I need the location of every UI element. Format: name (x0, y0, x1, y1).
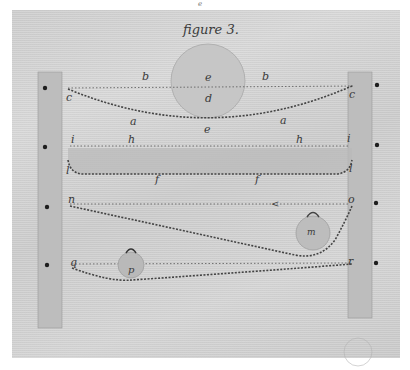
label-r: r (348, 255, 354, 268)
label-i-right: i (347, 132, 351, 145)
figure-title: figure 3. (182, 22, 239, 37)
label-q: q (70, 256, 77, 269)
label-a-left: a (130, 115, 137, 128)
label-b-left: b (142, 70, 149, 83)
label-h-right: h (296, 133, 303, 146)
peg-icon (45, 205, 49, 209)
label-e-ball: e (205, 71, 212, 84)
label-a-right: a (280, 114, 287, 127)
label-e-bottom: e (204, 123, 211, 136)
library-stamp-icon (344, 338, 372, 366)
horizontal-line-q-r (72, 263, 350, 264)
board (68, 148, 352, 174)
peg-icon (43, 86, 47, 90)
peg-icon (375, 143, 379, 147)
label-c-left: c (66, 91, 72, 104)
label-o: o (348, 193, 355, 206)
arrow-icon: < (271, 198, 279, 209)
label-c-right: c (349, 88, 355, 101)
label-p: p (128, 264, 135, 275)
label-d: d (205, 92, 212, 105)
label-l-right: l (349, 162, 353, 175)
label-l-left: l (66, 164, 70, 177)
left-post (38, 72, 62, 328)
label-h-left: h (128, 133, 135, 146)
label-i-left: i (71, 133, 75, 146)
peg-icon (374, 201, 378, 205)
label-n: n (68, 193, 75, 206)
label-f-left: f (154, 173, 161, 186)
label-f-right: f (254, 173, 261, 186)
peg-icon (375, 83, 379, 87)
peg-icon (45, 263, 49, 267)
rope-q-r (72, 264, 352, 280)
figure-diagram: figure 3. b b c c e d e a a i i h h l l … (0, 0, 410, 370)
peg-icon (374, 261, 378, 265)
label-m: m (307, 227, 316, 237)
peg-icon (43, 145, 47, 149)
label-b-right: b (262, 70, 269, 83)
